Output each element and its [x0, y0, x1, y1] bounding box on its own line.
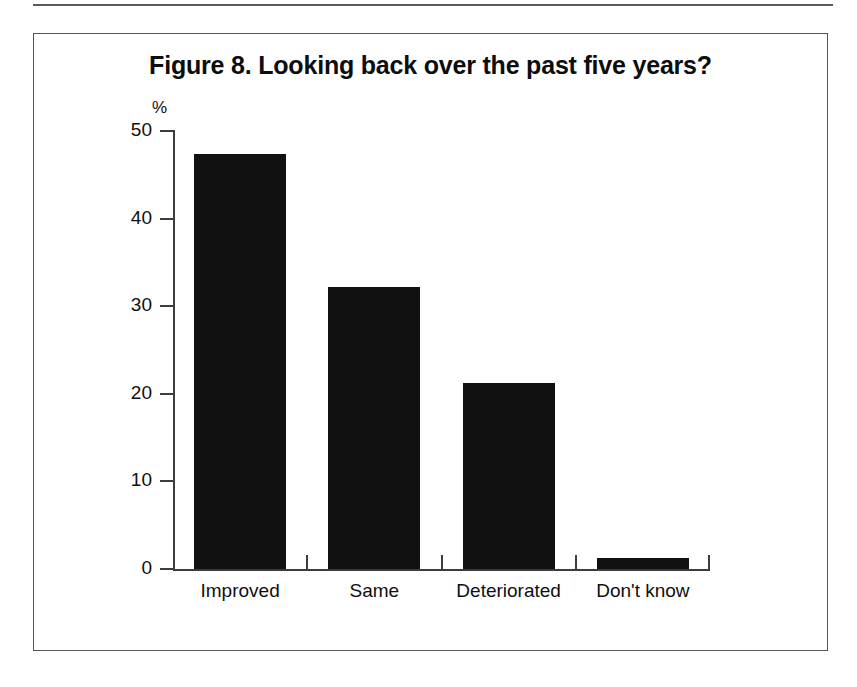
bar-chart-plot-area: % 01020304050 ImprovedSameDeterioratedDo…: [34, 34, 829, 652]
y-axis-tick-label: 50: [102, 119, 152, 141]
y-axis-line: [173, 131, 175, 569]
y-axis-tick-label: 0: [102, 557, 152, 579]
y-axis-unit-label: %: [152, 98, 167, 118]
y-axis-tick: [160, 568, 175, 570]
bar: [328, 287, 420, 569]
y-axis-tick-label: 30: [102, 294, 152, 316]
x-axis-category-label: Deteriorated: [442, 580, 576, 602]
bar: [194, 154, 286, 569]
x-axis-tick: [441, 555, 443, 570]
bar: [463, 383, 555, 569]
y-axis-tick: [160, 393, 175, 395]
x-axis-tick: [575, 555, 577, 570]
x-axis-end-tick: [708, 555, 710, 570]
x-axis-category-label: Don't know: [576, 580, 710, 602]
x-axis-category-label: Same: [307, 580, 441, 602]
y-axis-tick-label: 10: [102, 469, 152, 491]
y-axis-tick-label: 40: [102, 207, 152, 229]
y-axis-tick: [160, 218, 175, 220]
x-axis-tick: [306, 555, 308, 570]
figure-frame: Figure 8. Looking back over the past fiv…: [33, 33, 828, 651]
page-top-rule: [33, 4, 833, 6]
y-axis-tick: [160, 130, 175, 132]
y-axis-tick: [160, 305, 175, 307]
y-axis-tick-label: 20: [102, 382, 152, 404]
bar: [597, 558, 689, 569]
y-axis-tick: [160, 480, 175, 482]
x-axis-category-label: Improved: [173, 580, 307, 602]
